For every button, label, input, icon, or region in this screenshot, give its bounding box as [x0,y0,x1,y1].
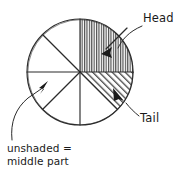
unshaded-callout-line [12,87,44,140]
sector-tail-fill [80,72,133,110]
label-unshaded-line2: middle part [7,155,69,167]
unshaded-arrowhead-icon [39,81,48,94]
circle-sector-diagram: Head Tail unshaded = middle part [0,0,182,180]
spoke-down-left [43,72,81,110]
label-unshaded-line1: unshaded = [7,142,72,154]
label-head: Head [143,11,174,25]
label-tail: Tail [139,111,159,125]
figure-root: Head Tail unshaded = middle part [0,0,182,180]
tail-callout-line [126,103,139,116]
spoke-up-left [43,35,81,73]
